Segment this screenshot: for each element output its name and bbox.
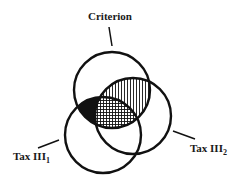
label-tax1: Tax III1	[13, 150, 50, 165]
label-criterion: Criterion	[88, 10, 132, 22]
venn-diagram: Criterion Tax III1 Tax III2	[0, 0, 239, 187]
leader-criterion	[109, 27, 112, 46]
leader-tax1	[38, 140, 59, 148]
label-tax2: Tax III2	[190, 142, 227, 157]
leader-tax2	[173, 131, 195, 139]
